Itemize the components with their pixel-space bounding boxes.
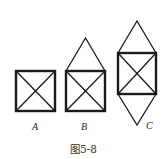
shape-b xyxy=(66,38,105,111)
shape-c-top-triangle xyxy=(118,21,156,53)
figure-caption: 图5-8 xyxy=(70,143,97,155)
shape-b-top-triangle xyxy=(66,38,105,71)
shape-a xyxy=(16,71,55,111)
label-a: A xyxy=(31,121,39,132)
label-c: C xyxy=(146,120,153,131)
label-b: B xyxy=(81,121,87,132)
figure-canvas: A B C 图5-8 xyxy=(0,0,168,159)
shape-c xyxy=(118,21,156,125)
